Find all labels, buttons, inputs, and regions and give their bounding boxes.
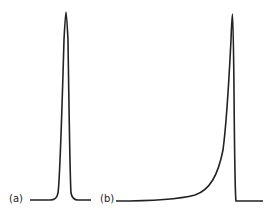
peak-diagram xyxy=(0,0,277,220)
label-b: (b) xyxy=(100,193,114,204)
curve-b xyxy=(116,14,263,201)
curve-a xyxy=(30,12,91,200)
label-a: (a) xyxy=(9,193,23,204)
